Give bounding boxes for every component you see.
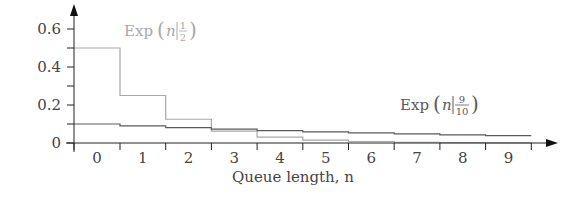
x-tick-label: 7 bbox=[412, 149, 422, 167]
close-paren: ) bbox=[189, 18, 197, 42]
series-label-exp-half: Exp ( n 1 2 ) bbox=[124, 18, 197, 43]
x-tick-label: 6 bbox=[367, 149, 377, 167]
y-tick-label: 0.6 bbox=[37, 20, 61, 38]
axes: 0.60.40.20 0123456789 bbox=[37, 4, 558, 167]
fraction-denominator: 10 bbox=[456, 106, 469, 117]
y-tick-label: 0.2 bbox=[37, 96, 61, 114]
x-axis-arrow-icon bbox=[546, 139, 558, 147]
fraction-numerator: 1 bbox=[180, 20, 186, 31]
series-label-main: Exp bbox=[124, 22, 153, 40]
x-tick-label: 3 bbox=[229, 149, 239, 167]
x-tick-label: 8 bbox=[458, 149, 468, 167]
x-tick-label: 9 bbox=[504, 149, 514, 167]
y-ticks: 0.60.40.20 bbox=[37, 20, 74, 152]
step-chart: 0.60.40.20 0123456789 Queue length, n Ex… bbox=[0, 0, 581, 199]
close-paren: ) bbox=[471, 92, 479, 116]
series-label-main: Exp bbox=[400, 96, 429, 114]
open-paren: ( bbox=[433, 92, 441, 116]
open-paren: ( bbox=[157, 18, 165, 42]
y-tick-label: 0.4 bbox=[37, 58, 61, 76]
series-label-arg: n bbox=[166, 22, 176, 40]
fraction-numerator: 9 bbox=[459, 94, 465, 105]
series-label-exp-nine-tenths: Exp ( n 9 10 ) bbox=[400, 92, 479, 117]
x-tick-label: 2 bbox=[184, 149, 194, 167]
y-tick-label: 0 bbox=[51, 134, 61, 152]
series-line-1 bbox=[74, 124, 531, 136]
x-tick-label: 4 bbox=[275, 149, 285, 167]
fraction-denominator: 2 bbox=[180, 32, 186, 43]
x-tick-label: 5 bbox=[321, 149, 331, 167]
x-tick-label: 0 bbox=[92, 149, 102, 167]
x-tick-label: 1 bbox=[138, 149, 148, 167]
x-axis-label: Queue length, n bbox=[232, 168, 354, 186]
series-label-arg: n bbox=[442, 96, 452, 114]
y-axis-arrow-icon bbox=[70, 4, 78, 16]
x-ticks: 0123456789 bbox=[74, 143, 531, 167]
